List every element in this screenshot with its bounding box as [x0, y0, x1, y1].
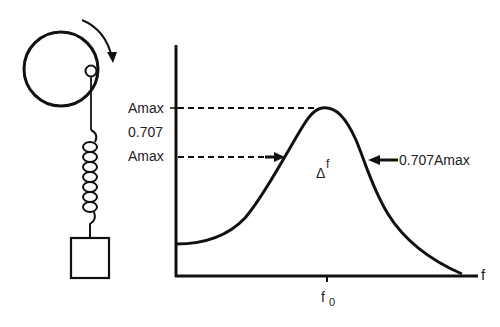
- wheel-icon: [24, 32, 98, 106]
- f0-sub-label: 0: [329, 296, 335, 308]
- x-axis-label: f: [481, 266, 486, 283]
- mass-block: [71, 238, 109, 278]
- f0-label: f: [321, 289, 325, 305]
- half-power-label-line1: 0.707: [128, 124, 163, 140]
- delta-label: Δ: [316, 165, 325, 181]
- resonance-diagram: Amax 0.707 Amax Δ f 0.707Amax f f 0: [0, 0, 500, 327]
- right-half-power-label: 0.707Amax: [399, 152, 470, 168]
- amax-label: Amax: [128, 100, 164, 116]
- delta-sup-label: f: [326, 157, 330, 171]
- spring-icon: [83, 130, 97, 238]
- right-bandwidth-arrow-icon: [368, 155, 398, 165]
- resonance-curve: [176, 108, 462, 274]
- half-power-label-line2: Amax: [128, 148, 164, 164]
